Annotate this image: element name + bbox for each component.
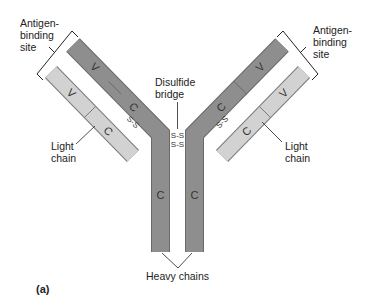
light-chain-leader-left [76,126,95,144]
constant-region-label: C [157,189,165,201]
disulfide-bond-hinge-2: S-S [171,140,184,149]
light-chain-label-left: Light chain [51,140,76,164]
antigen-binding-site-label-right: Antigen- binding site [313,24,352,60]
panel-label: (a) [36,283,49,295]
heavy-chains-leader [162,253,192,268]
heavy-chains-label: Heavy chains [146,270,209,282]
disulfide-bond-hinge-1: S-S [171,131,184,140]
light-chain-label-right: Light chain [285,140,310,164]
antigen-binding-site-label-left: Antigen- binding site [20,17,59,53]
antigen-bracket-tick-right [301,47,307,53]
disulfide-bridge-label: Disulfide bridge [155,76,195,100]
constant-region-label: C [191,189,199,201]
light-chain-leader-right [262,122,282,142]
